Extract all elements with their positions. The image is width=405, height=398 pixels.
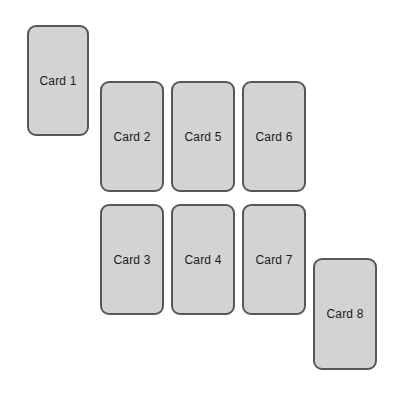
card-label: Card 8 <box>326 308 363 320</box>
card-layout-canvas: Card 1 Card 2 Card 5 Card 6 Card 3 Card … <box>0 0 405 398</box>
card-item[interactable]: Card 7 <box>242 204 306 315</box>
card-item[interactable]: Card 5 <box>171 81 235 192</box>
card-item[interactable]: Card 4 <box>171 204 235 315</box>
card-item[interactable]: Card 2 <box>100 81 164 192</box>
card-label: Card 1 <box>39 75 76 87</box>
card-item[interactable]: Card 8 <box>313 258 377 370</box>
card-label: Card 6 <box>255 131 292 143</box>
card-label: Card 7 <box>255 254 292 266</box>
card-label: Card 2 <box>113 131 150 143</box>
card-item[interactable]: Card 6 <box>242 81 306 192</box>
card-label: Card 4 <box>184 254 221 266</box>
card-label: Card 5 <box>184 131 221 143</box>
card-item[interactable]: Card 3 <box>100 204 164 315</box>
card-item[interactable]: Card 1 <box>27 25 89 136</box>
card-label: Card 3 <box>113 254 150 266</box>
